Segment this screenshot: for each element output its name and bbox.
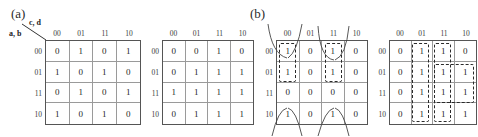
kmap-3-cell-0-1[interactable]: 0 xyxy=(300,41,323,62)
kmap-2-row-header-2: 11 xyxy=(144,89,159,98)
kmap-1-cell-3-0[interactable]: 1 xyxy=(46,103,70,124)
kmap-4-row-header-3: 10 xyxy=(371,110,386,119)
panel-label-b: (b) xyxy=(250,6,265,22)
kmap-3-cell-0-2[interactable]: 1 xyxy=(322,41,345,62)
kmap-1-cell-2-3[interactable]: 1 xyxy=(117,83,141,104)
kmap-2-cell-2-2[interactable]: 1 xyxy=(208,83,231,104)
kmap-3-cell-0-0[interactable]: 1 xyxy=(277,41,300,62)
kmap-3-row-header-3: 10 xyxy=(258,110,273,119)
kmap-1-cell-3-2[interactable]: 1 xyxy=(93,103,117,124)
kmap-3-cell-0-3[interactable]: 0 xyxy=(345,41,368,62)
kmap-4-cell-1-3[interactable]: 1 xyxy=(455,62,477,83)
kmap-2-cell-0-1[interactable]: 0 xyxy=(186,41,209,62)
kmap-4-cell-1-1[interactable]: 1 xyxy=(412,62,434,83)
kmap-4-cell-3-0[interactable]: 0 xyxy=(390,103,412,124)
kmap-2-cell-3-0[interactable]: 0 xyxy=(163,103,186,124)
kmap-3-col-header-2: 11 xyxy=(322,29,345,38)
kmap-2-cell-0-2[interactable]: 1 xyxy=(208,41,231,62)
kmap-1-cell-2-2[interactable]: 0 xyxy=(93,83,117,104)
kmap-2-cell-0-0[interactable]: 0 xyxy=(163,41,186,62)
kmap-4-cell-3-3[interactable]: 1 xyxy=(455,103,477,124)
kmap-3-cell-2-1[interactable]: 0 xyxy=(300,83,323,104)
kmap-4-col-header-3: 10 xyxy=(455,29,477,38)
kmap-1-col-header-1: 01 xyxy=(69,29,93,38)
kmap-3-cell-2-3[interactable]: 0 xyxy=(345,83,368,104)
kmap-2-cell-1-3[interactable]: 1 xyxy=(231,62,254,83)
kmap-figure: (a) (b) c, d a, b 00 01 11 10 00 01 11 1… xyxy=(0,0,478,137)
kmap-4-col-header-2: 11 xyxy=(433,29,455,38)
kmap-4-cell-2-0[interactable]: 0 xyxy=(390,83,412,104)
kmap-3-cell-1-1[interactable]: 0 xyxy=(300,62,323,83)
kmap-2-col-header-2: 11 xyxy=(208,29,231,38)
kmap-1-col-header-3: 10 xyxy=(117,29,141,38)
kmap-2-row-header-3: 10 xyxy=(144,110,159,119)
kmap-2-cell-2-1[interactable]: 1 xyxy=(186,83,209,104)
axis-label-cd: c, d xyxy=(29,18,41,27)
kmap-4-cell-2-1[interactable]: 1 xyxy=(412,83,434,104)
kmap-1-cell-0-1[interactable]: 1 xyxy=(70,41,94,62)
kmap-4-cell-0-0[interactable]: 0 xyxy=(390,41,412,62)
kmap-1-cell-3-3[interactable]: 0 xyxy=(117,103,141,124)
kmap-1-cell-1-3[interactable]: 0 xyxy=(117,62,141,83)
kmap-3-row-header-1: 01 xyxy=(258,68,273,77)
kmap-4-cell-0-2[interactable]: 1 xyxy=(433,41,455,62)
kmap-1-cell-3-1[interactable]: 0 xyxy=(70,103,94,124)
kmap-3-cell-3-0[interactable]: 1 xyxy=(277,103,300,124)
kmap-3-row-header-2: 11 xyxy=(258,89,273,98)
kmap-2-col-header-1: 01 xyxy=(185,29,208,38)
kmap-1-col-header-2: 11 xyxy=(93,29,117,38)
kmap-2-row-header-0: 00 xyxy=(144,47,159,56)
kmap-4-cell-2-2[interactable]: 1 xyxy=(433,83,455,104)
kmap-1-cell-1-1[interactable]: 0 xyxy=(70,62,94,83)
axis-label-ab: a, b xyxy=(9,29,21,38)
kmap-3-cell-1-0[interactable]: 1 xyxy=(277,62,300,83)
kmap-3-col-header-1: 01 xyxy=(299,29,322,38)
kmap-3-cell-3-2[interactable]: 1 xyxy=(322,103,345,124)
kmap-4-cell-3-2[interactable]: 1 xyxy=(433,103,455,124)
kmap-4-row-header-0: 00 xyxy=(371,47,386,56)
kmap-4-cell-3-1[interactable]: 1 xyxy=(412,103,434,124)
kmap-1-cell-0-3[interactable]: 1 xyxy=(117,41,141,62)
kmap-1-cell-1-2[interactable]: 1 xyxy=(93,62,117,83)
kmap-2-cell-3-3[interactable]: 1 xyxy=(231,103,254,124)
kmap-4-cell-0-1[interactable]: 1 xyxy=(412,41,434,62)
kmap-2-cell-3-1[interactable]: 1 xyxy=(186,103,209,124)
kmap-3-col-header-3: 10 xyxy=(345,29,368,38)
kmap-2-cell-1-0[interactable]: 0 xyxy=(163,62,186,83)
kmap-2-cell-1-1[interactable]: 1 xyxy=(186,62,209,83)
kmap-1-row-header-3: 10 xyxy=(25,110,42,119)
kmap-2-cell-0-3[interactable]: 0 xyxy=(231,41,254,62)
kmap-4-cell-2-3[interactable]: 1 xyxy=(455,83,477,104)
kmap-3-cell-2-2[interactable]: 0 xyxy=(322,83,345,104)
kmap-3-cell-2-0[interactable]: 0 xyxy=(277,83,300,104)
kmap-3-col-header-0: 00 xyxy=(276,29,299,38)
kmap-1-cell-0-2[interactable]: 0 xyxy=(93,41,117,62)
kmap-4-cell-0-3[interactable]: 0 xyxy=(455,41,477,62)
kmap-4-cell-1-2[interactable]: 1 xyxy=(433,62,455,83)
kmap-2-col-header-3: 10 xyxy=(231,29,254,38)
kmap-2-row-header-1: 01 xyxy=(144,68,159,77)
kmap-3-cell-1-3[interactable]: 0 xyxy=(345,62,368,83)
kmap-1-cell-1-0[interactable]: 1 xyxy=(46,62,70,83)
kmap-1-grid: 0 1 0 1 1 0 1 0 0 1 0 1 1 0 1 0 xyxy=(45,40,141,125)
kmap-4-col-header-1: 01 xyxy=(411,29,433,38)
kmap-3-cell-3-3[interactable]: 0 xyxy=(345,103,368,124)
kmap-1-cell-2-0[interactable]: 0 xyxy=(46,83,70,104)
kmap-2-cell-2-3[interactable]: 1 xyxy=(231,83,254,104)
kmap-3-cell-1-2[interactable]: 1 xyxy=(322,62,345,83)
kmap-1-cell-2-1[interactable]: 1 xyxy=(70,83,94,104)
kmap-4-grid: 0 1 1 0 0 1 1 1 0 1 1 1 0 1 1 1 xyxy=(389,40,477,125)
kmap-2-grid: 0 0 1 0 0 1 1 1 1 1 1 1 0 1 1 1 xyxy=(162,40,254,125)
kmap-3-row-header-0: 00 xyxy=(258,47,273,56)
kmap-4-col-header-0: 00 xyxy=(389,29,411,38)
kmap-2-cell-2-0[interactable]: 1 xyxy=(163,83,186,104)
kmap-2-cell-3-2[interactable]: 1 xyxy=(208,103,231,124)
kmap-4-cell-1-0[interactable]: 0 xyxy=(390,62,412,83)
kmap-1-col-header-0: 00 xyxy=(45,29,69,38)
kmap-1-row-header-1: 01 xyxy=(25,68,42,77)
kmap-1-cell-0-0[interactable]: 0 xyxy=(46,41,70,62)
kmap-2-cell-1-2[interactable]: 1 xyxy=(208,62,231,83)
kmap-1-row-header-0: 00 xyxy=(25,47,42,56)
kmap-4-row-header-2: 11 xyxy=(371,89,386,98)
kmap-3-cell-3-1[interactable]: 0 xyxy=(300,103,323,124)
